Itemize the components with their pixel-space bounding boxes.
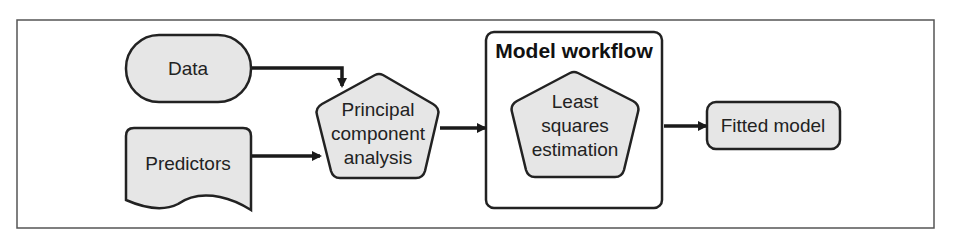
fitted-model-label: Fitted model (721, 115, 826, 136)
data-label: Data (168, 58, 209, 79)
pca-label-line1: Principal (342, 99, 415, 120)
workflow-title: Model workflow (495, 39, 653, 62)
predictors-label: Predictors (145, 153, 231, 174)
workflow-diagram: Data Predictors Principal component anal… (0, 0, 960, 234)
lse-label-line1: Least (552, 91, 599, 112)
pca-label-line3: analysis (344, 147, 413, 168)
node-data: Data (126, 35, 251, 102)
node-model-workflow: Model workflow Least squares estimation (486, 32, 662, 208)
lse-label-line3: estimation (532, 139, 619, 160)
node-predictors: Predictors (126, 128, 251, 210)
pca-label-line2: component (331, 123, 426, 144)
node-fitted-model: Fitted model (707, 102, 840, 149)
lse-label-line2: squares (541, 115, 609, 136)
